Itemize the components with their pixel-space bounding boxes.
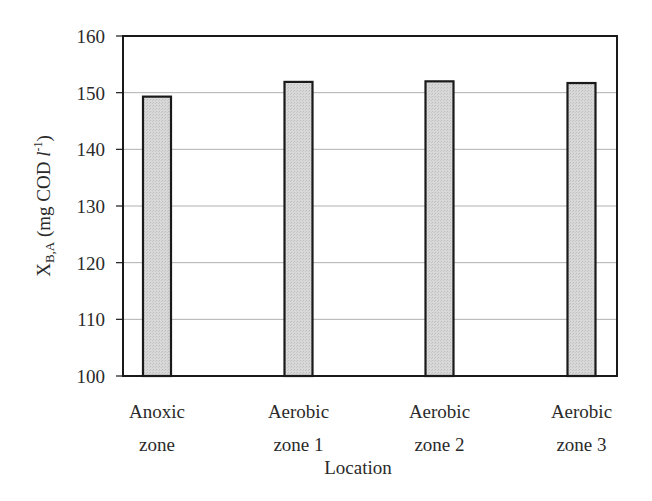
y-tick-label: 120 <box>77 253 106 274</box>
y-axis: 100110120130140150160 <box>77 26 124 387</box>
bar-chart: 100110120130140150160 AnoxiczoneAerobicz… <box>0 0 652 501</box>
x-category-label: zone 2 <box>414 434 464 455</box>
y-tick-label: 160 <box>77 26 106 47</box>
x-category-label: zone 3 <box>556 434 606 455</box>
y-tick-label: 140 <box>77 139 106 160</box>
bar-2 <box>285 82 313 376</box>
y-tick-label: 110 <box>77 309 105 330</box>
x-category-label: Aerobic <box>268 401 329 422</box>
x-category-label: zone 1 <box>273 434 323 455</box>
bars <box>143 81 596 376</box>
y-tick-label: 130 <box>77 196 106 217</box>
bar-3 <box>426 81 454 376</box>
x-axis-title: Location <box>324 457 392 478</box>
bar-4 <box>568 83 596 376</box>
x-axis: AnoxiczoneAerobiczone 1Aerobiczone 2Aero… <box>129 401 612 455</box>
x-category-label: Aerobic <box>551 401 612 422</box>
x-category-label: Anoxic <box>129 401 185 422</box>
bar-1 <box>143 97 171 376</box>
y-tick-label: 150 <box>77 83 106 104</box>
y-axis-title: XB,A (mg COD l-1) <box>31 135 57 277</box>
gridlines <box>123 93 617 320</box>
x-category-label: zone <box>139 434 175 455</box>
y-tick-label: 100 <box>77 366 106 387</box>
x-category-label: Aerobic <box>409 401 470 422</box>
